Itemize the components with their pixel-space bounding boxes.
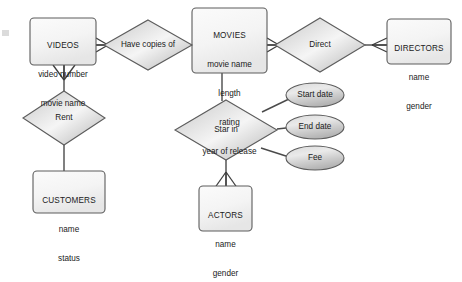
connector-star-in-end-date [277,128,286,129]
scan-edge-artifact [2,30,9,36]
crowsfoot-direct-directors [372,38,387,52]
crowsfoot-videos-rent [53,65,75,80]
attribute-ellipse-fee[interactable] [286,146,344,170]
entity-box-movies[interactable] [192,8,267,73]
entity-box-directors[interactable] [387,19,451,64]
relationship-diamond-star-in[interactable] [175,100,277,160]
relationship-diamond-rent[interactable] [23,91,105,145]
relationship-diamond-direct[interactable] [275,18,365,72]
entity-box-actors[interactable] [199,186,252,231]
entity-attribute-actors-1: gender [197,269,254,279]
entity-box-videos[interactable] [30,18,96,65]
attribute-ellipse-end-date[interactable] [286,115,344,139]
attribute-ellipse-start-date[interactable] [286,83,344,107]
entity-attribute-customers-1: status [32,254,106,264]
entity-box-customers[interactable] [33,171,105,213]
attribute-shapes [286,83,344,170]
connector-star-in-fee [261,148,289,157]
connector-star-in-start-date [262,99,289,112]
relationship-diamond-have-copies-of[interactable] [104,20,192,70]
